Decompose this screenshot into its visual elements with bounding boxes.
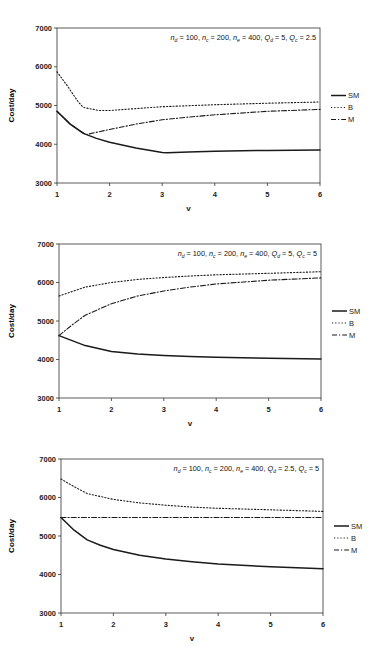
y-tick-label: 4000 <box>39 570 56 579</box>
x-tick-label: 3 <box>164 620 168 629</box>
y-axis-label: Cost/day <box>7 519 16 553</box>
chart-3-svg: 30004000500060007000123456vCost/daynd = … <box>0 0 376 664</box>
legend-label-sm: SM <box>351 522 362 531</box>
plot-frame <box>61 459 323 613</box>
y-tick-label: 7000 <box>39 455 56 464</box>
x-tick-label: 1 <box>59 620 63 629</box>
y-tick-label: 3000 <box>39 609 56 618</box>
x-axis-label: v <box>190 634 195 643</box>
chart-3: 30004000500060007000123456vCost/daynd = … <box>0 0 376 215</box>
x-tick-label: 2 <box>111 620 115 629</box>
y-tick-label: 5000 <box>39 532 56 541</box>
x-tick-label: 4 <box>216 620 221 629</box>
legend-label-m: M <box>351 546 357 555</box>
x-tick-label: 5 <box>269 620 273 629</box>
series-line-sm <box>61 518 323 569</box>
series-line-b <box>61 479 323 511</box>
x-tick-label: 6 <box>321 620 325 629</box>
y-tick-label: 6000 <box>39 493 56 502</box>
legend-label-b: B <box>351 534 356 543</box>
parameter-annotation: nd = 100, nc = 200, ne = 400, Qd = 2.5, … <box>174 464 319 474</box>
